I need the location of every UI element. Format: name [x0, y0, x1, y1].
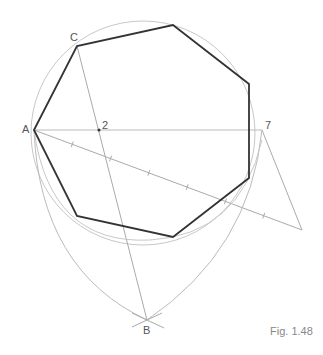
c-to-b-line: [77, 46, 147, 320]
arc-inner: [34, 130, 262, 240]
figure-caption: Fig. 1.48: [270, 325, 313, 337]
label-7: 7: [265, 119, 271, 131]
division-line: [34, 130, 302, 230]
figure: A C 2 7 B Fig. 1.48: [0, 0, 323, 355]
diagram-canvas: [0, 0, 323, 355]
closing-line: [262, 130, 302, 230]
point-2: [98, 129, 101, 132]
label-2: 2: [102, 119, 108, 131]
label-c: C: [70, 31, 78, 43]
heptagon: [34, 25, 249, 237]
circumcircle: [31, 21, 255, 245]
label-b: B: [143, 324, 150, 336]
arc-left: [34, 130, 147, 320]
label-a: A: [22, 123, 29, 135]
